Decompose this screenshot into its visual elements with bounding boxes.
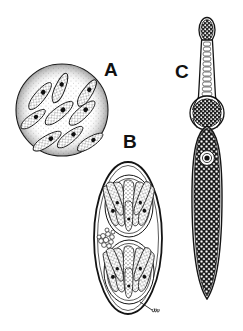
illustration-canvas (0, 0, 243, 331)
panel-c-sporont (190, 18, 224, 300)
panel-a-cyst (16, 64, 108, 156)
panel-b-oocyst (94, 162, 162, 314)
sporozoite (125, 268, 133, 298)
figure-plate: A B C (0, 0, 243, 331)
nucleus (200, 151, 215, 166)
neck-segments (202, 42, 212, 96)
panel-label-c: C (175, 62, 189, 81)
sporozoite (125, 201, 133, 231)
panel-label-a: A (104, 60, 118, 79)
panel-label-b: B (123, 132, 137, 151)
